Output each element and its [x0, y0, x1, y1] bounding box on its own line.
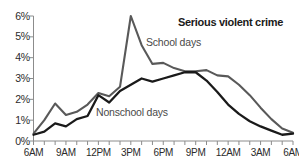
x-tick-label: 3AM: [251, 148, 271, 158]
plot-area: [0, 0, 299, 165]
y-tick-label: 4%: [0, 52, 30, 62]
series-line-nonschool-days: [34, 72, 294, 135]
x-axis-minor-ticks: [34, 141, 294, 145]
x-tick-label: 6AM: [283, 148, 299, 158]
data-series-lines: [34, 16, 294, 135]
x-tick-label: 9AM: [56, 148, 76, 158]
y-tick-label: 1%: [0, 115, 30, 125]
chart-container: Serious violent crime School days Nonsch…: [0, 0, 299, 165]
y-tick-label: 3%: [0, 73, 30, 83]
y-tick-label: 5%: [0, 31, 30, 41]
x-tick-label: 9PM: [186, 148, 206, 158]
series-line-school-days: [34, 16, 294, 134]
y-tick-label: 6%: [0, 11, 30, 21]
x-tick-label: 3PM: [121, 148, 141, 158]
x-tick-label: 6PM: [153, 148, 173, 158]
x-tick-label: 12PM: [86, 148, 111, 158]
y-axis-major-ticks: [30, 16, 34, 141]
x-tick-label: 12AM: [216, 148, 241, 158]
y-tick-label: 0%: [0, 136, 30, 146]
x-tick-label: 6AM: [24, 148, 44, 158]
y-tick-label: 2%: [0, 94, 30, 104]
